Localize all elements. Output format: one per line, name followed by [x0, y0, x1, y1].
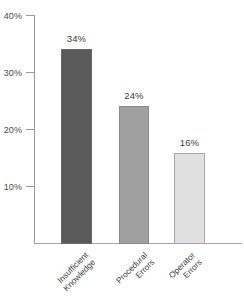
category-label-insufficient-knowledge[interactable]: Insufficient Knowledge [54, 250, 97, 293]
bar-value-procedural-errors: 24% [119, 90, 149, 101]
bar-value-operator-errors: 16% [174, 137, 205, 148]
category-labels: Insufficient Knowledge Procedural Errors… [0, 244, 244, 304]
category-label-operator-errors[interactable]: Operator Errors [167, 250, 204, 287]
category-label-procedural-errors[interactable]: Procedural Errors [114, 250, 157, 293]
bar-chart: 40% 30% 20% 10% 34% 24% 16% Insufficient… [0, 0, 244, 304]
bar-value-insufficient-knowledge: 34% [61, 33, 92, 44]
bar-operator-errors[interactable] [174, 153, 205, 244]
bar-insufficient-knowledge[interactable] [61, 49, 92, 244]
bar-procedural-errors[interactable] [119, 106, 149, 244]
plot-area: 40% 30% 20% 10% 34% 24% 16% [0, 0, 244, 250]
bars-layer [0, 0, 244, 244]
